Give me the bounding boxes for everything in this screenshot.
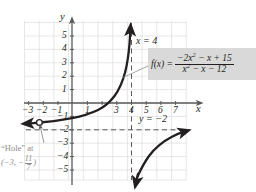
function-formula-lhs: f(x) = (151, 59, 173, 69)
denominator-post: − x − 12 (190, 64, 226, 74)
hole-fraction-numerator: 11 (25, 155, 32, 163)
x-tick-label-minus3: −3 (22, 106, 33, 116)
x-tick-label-3: 3 (114, 106, 119, 116)
hole-coord-close: ) (33, 158, 36, 168)
y-tick-label-3: 3 (62, 58, 67, 68)
function-formula: f(x) = −2x2 − x + 15 x2 − x − 12 (151, 54, 234, 75)
y-tick-label-minus2: 2 (64, 125, 69, 135)
hole-pointer-line (40, 127, 44, 144)
hole-annotation-coordinates: (−3, − 11 7 ) (1, 155, 77, 172)
x-tick-label-4: 4 (129, 106, 134, 116)
x-tick-label-1: 1 (85, 106, 90, 116)
y-tick-label-minus1: −1 (57, 112, 68, 122)
y-tick-label-4: 4 (62, 44, 67, 54)
hole-fraction-denominator: 7 (25, 163, 32, 172)
function-formula-fraction: −2x2 − x + 15 x2 − x − 12 (175, 54, 234, 75)
x-axis-label: x (196, 104, 201, 115)
hole-annotation: “Hole” at (−3, − 11 7 ) (1, 144, 77, 172)
y-tick-label-1: 1 (62, 85, 67, 95)
y-tick-label-5: 5 (62, 31, 67, 41)
y-tick-label-2: 2 (62, 71, 67, 81)
function-formula-box: f(x) = −2x2 − x + 15 x2 − x − 12 (148, 48, 256, 80)
x-tick-label-minus2: −2 (36, 106, 47, 116)
numerator-post: − x + 15 (196, 53, 232, 63)
hole-annotation-line1: “Hole” at (1, 144, 77, 154)
y-axis-label: y (60, 12, 65, 23)
hole-open-circle (37, 120, 43, 126)
function-formula-denominator: x2 − x − 12 (175, 64, 234, 75)
hole-coord-fraction: 11 7 (25, 155, 32, 172)
curve-right-down-arrow (136, 174, 138, 183)
rational-function-figure: y x −3 −2 −1 1 3 4 5 6 7 5 4 3 2 1 −1 2 … (0, 0, 256, 192)
function-formula-numerator: −2x2 − x + 15 (175, 54, 234, 64)
vertical-asymptote-label: x = 4 (136, 36, 157, 46)
horizontal-asymptote-label: y = −2 (139, 114, 167, 124)
hole-coord-open: (−3, − (1, 158, 24, 168)
x-tick-label-7: 7 (173, 106, 178, 116)
